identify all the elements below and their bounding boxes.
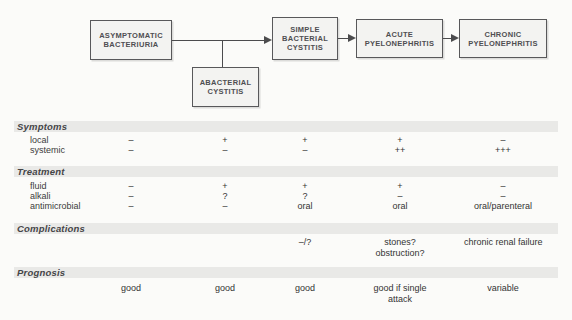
cell-value: – <box>176 201 274 211</box>
cell-value: –/? <box>274 237 336 258</box>
section-band-treatment: Treatment <box>14 166 558 177</box>
section-title: Complications <box>14 223 558 234</box>
row-label: alkali <box>0 191 86 201</box>
arrowhead-right-icon <box>348 34 356 42</box>
flow-box-abacterial-cystitis: ABACTERIAL CYSTITIS <box>192 67 259 107</box>
cell-value <box>176 237 274 258</box>
section-band-complications: Complications <box>14 223 558 234</box>
cell-value: – <box>176 145 274 155</box>
cell-value: – <box>86 135 176 145</box>
flow-box-label: CHRONIC PYELONEPHRITIS <box>468 30 538 48</box>
cell-value: + <box>274 135 336 145</box>
cell-value: good if single attack <box>336 283 464 304</box>
table-row-prognosis: good good good good if single attack var… <box>0 283 572 304</box>
table-row-systemic: systemic – – – ++ +++ <box>0 145 572 155</box>
cell-value: – <box>86 201 176 211</box>
cell-value: good <box>176 283 274 304</box>
section-band-prognosis: Prognosis <box>14 267 558 278</box>
cell-value: + <box>274 181 336 191</box>
row-label <box>0 237 86 258</box>
cell-value: +++ <box>464 145 542 155</box>
cell-value: + <box>176 135 274 145</box>
flow-box-label: ACUTE PYELONEPHRITIS <box>365 30 435 48</box>
section-title: Symptoms <box>14 121 558 132</box>
section-title: Prognosis <box>14 267 558 278</box>
cell-value: good <box>274 283 336 304</box>
flow-box-label: ASYMPTOMATIC BACTERIURIA <box>99 31 163 49</box>
connector-branch-line <box>222 40 223 67</box>
flow-box-label: SIMPLE BACTERIAL CYSTITIS <box>282 25 328 52</box>
flow-box-simple-bacterial-cystitis: SIMPLE BACTERIAL CYSTITIS <box>272 17 338 60</box>
cell-value: – <box>464 191 542 201</box>
cell-value: ? <box>176 191 274 201</box>
cell-value: – <box>274 145 336 155</box>
cell-value: oral <box>274 201 336 211</box>
row-label <box>0 283 86 304</box>
flow-box-asymptomatic-bacteriuria: ASYMPTOMATIC BACTERIURIA <box>90 20 172 60</box>
cell-value: – <box>464 135 542 145</box>
table-row-local: local – + + + – <box>0 135 572 145</box>
cell-value: + <box>176 181 274 191</box>
table-row-complications: –/? stones? obstruction? chronic renal f… <box>0 237 572 258</box>
cell-value: – <box>86 191 176 201</box>
row-label: fluid <box>0 181 86 191</box>
section-band-symptoms: Symptoms <box>14 121 558 132</box>
cell-value: – <box>464 181 542 191</box>
cell-value: + <box>336 181 464 191</box>
cell-value: + <box>336 135 464 145</box>
cell-value: – <box>86 181 176 191</box>
table-row-alkali: alkali – ? ? – – <box>0 191 572 201</box>
row-label: local <box>0 135 86 145</box>
cell-value: – <box>86 145 176 155</box>
row-label: systemic <box>0 145 86 155</box>
row-label: antimicrobial <box>0 201 86 211</box>
arrowhead-right-icon <box>451 34 459 42</box>
cell-value: variable <box>464 283 542 304</box>
flow-box-chronic-pyelonephritis: CHRONIC PYELONEPHRITIS <box>459 19 547 58</box>
cell-value: stones? obstruction? <box>336 237 464 258</box>
cell-value <box>86 237 176 258</box>
flow-box-label: ABACTERIAL CYSTITIS <box>200 78 252 96</box>
figure-root: ASYMPTOMATIC BACTERIURIA ABACTERIAL CYST… <box>0 0 572 320</box>
cell-value: chronic renal failure <box>464 237 542 258</box>
flow-box-acute-pyelonephritis: ACUTE PYELONEPHRITIS <box>356 19 443 58</box>
cell-value: good <box>86 283 176 304</box>
cell-value: ? <box>274 191 336 201</box>
table-row-fluid: fluid – + + + – <box>0 181 572 191</box>
cell-value: oral <box>336 201 464 211</box>
connector-main-line <box>172 40 265 41</box>
cell-value: – <box>336 191 464 201</box>
section-title: Treatment <box>14 166 558 177</box>
arrowhead-right-icon <box>264 36 272 44</box>
cell-value: ++ <box>336 145 464 155</box>
cell-value: oral/parenteral <box>464 201 542 211</box>
table-row-antimicrobial: antimicrobial – – oral oral oral/parente… <box>0 201 572 211</box>
